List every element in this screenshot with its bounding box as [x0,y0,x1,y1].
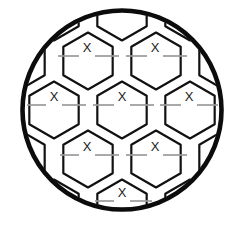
x-mark-label: X [151,40,160,55]
x-mark-label: X [118,185,127,200]
hexagon-panel-group [0,0,232,232]
x-mark-label: X [185,89,194,104]
diagram-canvas: XXXXXXXX [0,0,232,232]
x-mark-label: X [118,89,127,104]
x-mark-label: X [83,139,92,154]
x-mark-label: X [151,139,160,154]
hexagon-panel [0,82,11,139]
x-mark-label: X [83,40,92,55]
x-mark-label: X [50,89,59,104]
soccer-ball-diagram: XXXXXXXX [0,0,232,232]
